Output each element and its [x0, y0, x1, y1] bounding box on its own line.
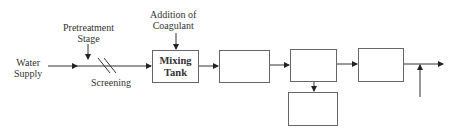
coagulant-label: Addition of Coagulant	[150, 9, 196, 31]
pretreatment-label: Pretreatment Stage	[63, 22, 114, 44]
mixing-tank-label: Mixing Tank	[159, 55, 191, 79]
process-box-2	[219, 50, 270, 83]
process-box-3	[290, 49, 337, 82]
process-box-5	[358, 48, 404, 82]
water-supply-label: Water Supply	[14, 57, 42, 79]
process-box-4	[288, 92, 338, 126]
mixing-tank-box: Mixing Tank	[152, 50, 199, 83]
screening-label: Screening	[91, 77, 131, 88]
